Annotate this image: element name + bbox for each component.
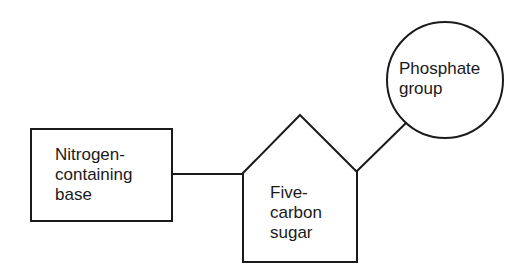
sugar-phosphate-bond (356, 123, 406, 172)
nitrogen-base-label: Nitrogen- containing base (55, 145, 133, 205)
nucleotide-diagram (0, 0, 526, 279)
phosphate-group-label: Phosphate group (399, 59, 480, 99)
five-carbon-sugar-label: Five- carbon sugar (270, 183, 322, 243)
